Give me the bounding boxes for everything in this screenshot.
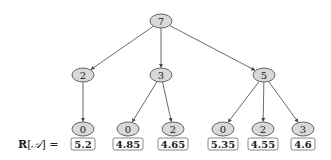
edge-n2-l1 <box>132 82 157 123</box>
edge-n2-l2 <box>163 82 172 122</box>
node-label: 0 <box>220 124 226 135</box>
value-box-l3: 5.35 <box>208 138 238 150</box>
edge-n0-n1 <box>91 26 154 69</box>
nodes: 7235002023 <box>72 14 314 136</box>
value-box-l5: 4.6 <box>291 138 315 150</box>
tree-node-l3: 0 <box>212 122 234 136</box>
value-text: 4.65 <box>161 139 185 150</box>
value-box-l4: 4.55 <box>248 138 278 150</box>
node-label: 2 <box>260 124 266 135</box>
tree-diagram: 7235002023 5.24.854.655.354.554.6 R[𝒜] = <box>0 0 331 160</box>
tree-node-l0: 0 <box>72 122 94 136</box>
node-label: 2 <box>80 70 86 81</box>
value-box-l2: 4.65 <box>158 138 188 150</box>
node-label: 5 <box>261 70 267 81</box>
tree-node-n2: 3 <box>150 68 172 82</box>
value-text: 4.85 <box>116 139 140 150</box>
node-label: 0 <box>125 124 131 135</box>
edge-n3-l4 <box>263 82 264 122</box>
tree-node-l5: 3 <box>292 122 314 136</box>
value-text: 5.2 <box>74 139 91 150</box>
values-row-label: R[𝒜] = <box>18 138 58 151</box>
edge-n3-l5 <box>269 81 299 122</box>
node-label: 0 <box>80 124 86 135</box>
tree-node-n0: 7 <box>150 14 172 28</box>
value-boxes: 5.24.854.655.354.554.6 <box>71 138 315 150</box>
value-text: 4.55 <box>251 139 275 150</box>
tree-node-n3: 5 <box>253 68 275 82</box>
node-label: 7 <box>158 16 164 27</box>
value-text: 5.35 <box>211 139 235 150</box>
node-label: 3 <box>158 70 164 81</box>
value-text: 4.6 <box>294 139 311 150</box>
tree-node-l4: 2 <box>252 122 274 136</box>
edge-n3-l3 <box>228 81 259 122</box>
node-label: 3 <box>300 124 306 135</box>
tree-node-l2: 2 <box>162 122 184 136</box>
tree-node-l1: 0 <box>117 122 139 136</box>
value-box-l0: 5.2 <box>71 138 95 150</box>
tree-node-n1: 2 <box>72 68 94 82</box>
value-box-l1: 4.85 <box>113 138 143 150</box>
node-label: 2 <box>170 124 176 135</box>
edge-n0-n3 <box>169 25 255 70</box>
